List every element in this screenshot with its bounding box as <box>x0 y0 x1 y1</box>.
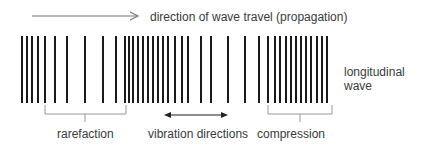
longitudinal-label: longitudinal <box>344 65 405 79</box>
vibration-double-arrow-icon <box>164 112 228 118</box>
rarefaction-bracket <box>45 105 126 122</box>
vibration-directions-label: vibration directions <box>148 127 248 141</box>
rarefaction-label: rarefaction <box>57 127 114 141</box>
longitudinal-wave-diagram: direction of wave travel (propagation) l… <box>0 0 421 148</box>
wave-label: wave <box>344 79 372 93</box>
wave-bars <box>22 36 327 103</box>
compression-bracket <box>268 105 332 122</box>
propagation-label: direction of wave travel (propagation) <box>150 10 347 24</box>
compression-label: compression <box>257 127 325 141</box>
propagation-arrow-icon <box>32 12 138 20</box>
